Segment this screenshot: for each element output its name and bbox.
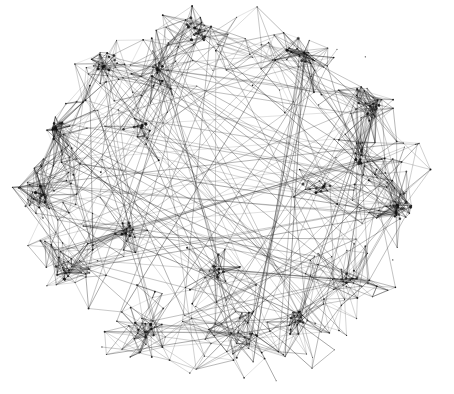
- network-graph-svg: [0, 0, 454, 394]
- graph-canvas-container: [0, 0, 454, 394]
